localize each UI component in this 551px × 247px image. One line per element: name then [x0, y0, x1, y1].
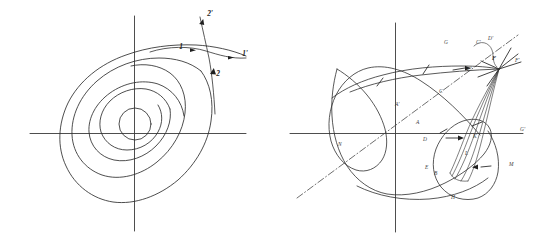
curve-tick-marks [377, 65, 482, 133]
label-N: N [337, 141, 342, 147]
upper-sweep-arc [332, 66, 499, 98]
label-G-prime: G' [520, 126, 526, 132]
label-M: M [508, 161, 514, 167]
label-C: C [439, 88, 443, 94]
figure-root: 1 1' 2 2' [0, 0, 551, 247]
label-2-prime: 2' [206, 9, 213, 18]
spindle-edge-1 [468, 69, 499, 181]
label-D-prime: D' [487, 35, 494, 41]
label-G: G [444, 39, 448, 45]
label-A-prime: A' [394, 101, 400, 107]
left-figure-panel: 1 1' 2 2' [0, 0, 275, 247]
label-C-prime: C' [476, 39, 482, 45]
contour-center-circle [119, 108, 151, 140]
label-L: L [464, 150, 468, 156]
arrow-head-2p [199, 19, 204, 25]
label-B: B [434, 170, 438, 176]
label-A: A [415, 119, 420, 125]
label-F-prime: F' [514, 57, 520, 63]
symmetry-dash-dot-line [297, 35, 518, 198]
label-1: 1 [179, 42, 183, 51]
label-E: E [424, 164, 429, 170]
label-K: K [472, 133, 477, 139]
spindle-edge-2 [461, 69, 499, 181]
direction-curve-1 [150, 47, 246, 58]
direction-curve-2 [200, 17, 215, 114]
label-2: 2 [215, 69, 220, 78]
label-D: D [422, 136, 427, 142]
label-F: F [492, 55, 496, 61]
label-E-prime: E' [466, 66, 472, 72]
right-figure-panel: A B C D E F G H A' C' D' E' F' G' K L M … [275, 0, 551, 247]
label-1-prime: 1' [242, 49, 248, 58]
lower-sweep-arc [357, 178, 488, 199]
